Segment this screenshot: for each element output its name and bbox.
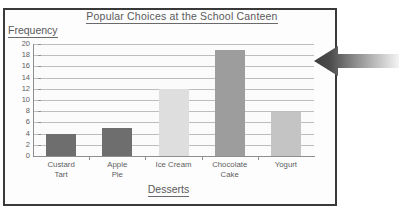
- y-tick-mark: [38, 78, 41, 79]
- y-tick-label: 10: [22, 96, 30, 104]
- y-tick-label: 12: [22, 85, 30, 93]
- x-category-label: Ice Cream: [145, 160, 201, 170]
- y-tick-label: 2: [26, 141, 30, 149]
- bar: [215, 50, 245, 156]
- gridline: [33, 78, 314, 79]
- x-category-label: Chocolate Cake: [202, 160, 258, 179]
- y-axis-title-text: Frequency: [8, 24, 58, 38]
- plot-area: [33, 44, 314, 156]
- y-tick-label: 20: [22, 40, 30, 48]
- y-tick-label: 16: [22, 62, 30, 70]
- y-tick-label: 8: [26, 107, 30, 115]
- y-tick-mark: [38, 122, 41, 123]
- bar: [46, 134, 76, 156]
- y-axis-line: [33, 44, 34, 157]
- chart-title-text: Popular Choices at the School Canteen: [86, 10, 277, 24]
- y-tick-label: 18: [22, 51, 30, 59]
- x-axis-title-text: Desserts: [148, 183, 189, 197]
- y-tick-mark: [38, 100, 41, 101]
- screenshot-root: Popular Choices at the School Canteen Fr…: [0, 0, 399, 216]
- y-axis-ticks: 02468101214161820: [8, 44, 30, 156]
- left-pointing-arrow: [313, 44, 399, 78]
- x-category-label: Custard Tart: [33, 160, 89, 179]
- x-axis-title: Desserts: [0, 183, 337, 195]
- y-tick-mark: [38, 111, 41, 112]
- y-tick-mark: [38, 134, 41, 135]
- y-tick-mark: [38, 44, 41, 45]
- y-tick-label: 4: [26, 130, 30, 138]
- y-tick-mark: [38, 89, 41, 90]
- y-tick-label: 14: [22, 74, 30, 82]
- bar: [102, 128, 132, 156]
- y-tick-label: 0: [26, 152, 30, 160]
- gridline: [33, 66, 314, 67]
- y-tick-label: 6: [26, 118, 30, 126]
- bar: [159, 89, 189, 156]
- y-tick-mark: [38, 145, 41, 146]
- y-tick-mark: [38, 66, 41, 67]
- x-axis-line: [33, 156, 315, 157]
- arrow-icon: [313, 44, 399, 78]
- x-category-label: Apple Pie: [89, 160, 145, 179]
- gridline: [33, 55, 314, 56]
- gridline: [33, 44, 314, 45]
- x-category-label: Yogurt: [258, 160, 314, 170]
- y-tick-mark: [38, 55, 41, 56]
- chart-title: Popular Choices at the School Canteen: [62, 10, 302, 22]
- bar: [271, 112, 301, 156]
- y-axis-title: Frequency: [8, 24, 58, 36]
